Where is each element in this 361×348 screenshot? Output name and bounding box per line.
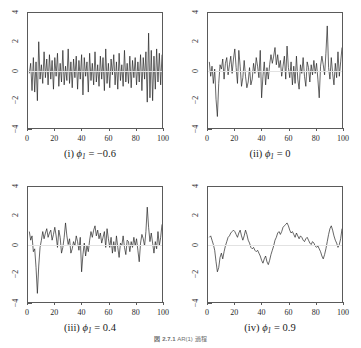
panel-i-y-axis: −4−2024 bbox=[6, 12, 26, 129]
panel-i: −4−2024 020406080100 (i) ϕ1 = −0.6 bbox=[0, 0, 180, 174]
panel-ii-x-tick-label: 40 bbox=[249, 134, 273, 144]
panel-ii-caption: (ii) ϕ1 = 0 bbox=[180, 148, 360, 161]
figure-caption: 図 2.7.1 AR(1) 過程 bbox=[0, 334, 361, 343]
panel-iv-caption-index: (iv) bbox=[244, 322, 259, 333]
panel-ii-plot-area bbox=[207, 12, 343, 129]
panel-iii-x-tick-label: 20 bbox=[42, 308, 66, 318]
panel-i-x-tick-mark bbox=[163, 128, 164, 131]
panel-iii-x-tick-label: 40 bbox=[69, 308, 93, 318]
panel-iv: −4−2024 020406080100 (iv) ϕ1 = 0.9 bbox=[180, 174, 360, 330]
panel-i-caption: (i) ϕ1 = −0.6 bbox=[0, 148, 180, 161]
panel-i-x-tick-mark bbox=[54, 128, 55, 131]
panel-iv-x-tick-label: 60 bbox=[277, 308, 301, 318]
panel-iii-x-tick-mark bbox=[27, 302, 28, 305]
panel-ii-x-axis: 020406080100 bbox=[207, 131, 343, 145]
panel-ii-caption-value: = 0 bbox=[277, 148, 291, 159]
panel-iii-caption: (iii) ϕ1 = 0.4 bbox=[0, 322, 180, 335]
panel-iii-caption-index: (iii) bbox=[64, 322, 80, 333]
panel-iv-y-tick-label: 0 bbox=[190, 235, 202, 255]
panel-i-y-tick-label: 4 bbox=[10, 2, 22, 22]
panel-i-caption-sub: 1 bbox=[82, 152, 86, 161]
panel-i-x-tick-mark bbox=[136, 128, 137, 131]
panel-iii-y-tick-label: −2 bbox=[10, 264, 22, 284]
panel-iv-x-tick-mark bbox=[207, 302, 208, 305]
figure-caption-text: AR(1) 過程 bbox=[177, 336, 206, 342]
panel-iii-y-axis: −4−2024 bbox=[6, 186, 26, 303]
panel-iv-x-tick-mark bbox=[234, 302, 235, 305]
panel-iii-x-tick-label: 0 bbox=[15, 308, 39, 318]
panel-ii-x-tick-mark bbox=[316, 128, 317, 131]
panel-iv-x-tick-label: 100 bbox=[331, 308, 355, 318]
panel-iii-caption-value: = 0.4 bbox=[94, 322, 116, 333]
panel-iv-x-tick-mark bbox=[343, 302, 344, 305]
panel-ii-zero-line bbox=[208, 71, 342, 72]
panel-ii-y-tick-label: 4 bbox=[190, 2, 202, 22]
panel-iii-x-tick-label: 100 bbox=[151, 308, 175, 318]
panel-ii-y-tick-mark bbox=[208, 129, 212, 130]
panel-iv-caption-value: = 0.9 bbox=[274, 322, 296, 333]
panel-grid: −4−2024 020406080100 (i) ϕ1 = −0.6 −4−20… bbox=[0, 0, 361, 330]
panel-ii-x-tick-label: 60 bbox=[277, 134, 301, 144]
panel-iv-x-axis: 020406080100 bbox=[207, 305, 343, 319]
panel-ii-y-tick-label: 2 bbox=[190, 31, 202, 51]
panel-iv-y-tick-label: 4 bbox=[190, 176, 202, 196]
panel-i-zero-line bbox=[28, 71, 162, 72]
panel-ii-caption-sub: 1 bbox=[270, 152, 274, 161]
panel-iv-x-tick-mark bbox=[261, 302, 262, 305]
panel-i-x-tick-label: 80 bbox=[124, 134, 148, 144]
panel-i-y-tick-label: 2 bbox=[10, 31, 22, 51]
panel-iii-x-tick-mark bbox=[109, 302, 110, 305]
figure-ar1-time-series: −4−2024 020406080100 (i) ϕ1 = −0.6 −4−20… bbox=[0, 0, 361, 348]
panel-iii-y-tick-label: 2 bbox=[10, 205, 22, 225]
panel-iii-x-tick-mark bbox=[163, 302, 164, 305]
panel-iv-x-tick-label: 80 bbox=[304, 308, 328, 318]
panel-iv-x-tick-label: 20 bbox=[222, 308, 246, 318]
panel-iii-y-tick-mark bbox=[28, 303, 32, 304]
panel-i-y-tick-label: 0 bbox=[10, 61, 22, 81]
panel-ii-y-tick-label: 0 bbox=[190, 61, 202, 81]
panel-ii-x-tick-mark bbox=[234, 128, 235, 131]
panel-ii-x-tick-mark bbox=[261, 128, 262, 131]
panel-ii-y-tick-label: −2 bbox=[190, 90, 202, 110]
panel-iii-zero-line bbox=[28, 245, 162, 246]
panel-iii-plot-area bbox=[27, 186, 163, 303]
figure-caption-label: 図 2.7.1 bbox=[154, 336, 175, 342]
panel-iv-zero-line bbox=[208, 245, 342, 246]
panel-i-caption-index: (i) bbox=[64, 148, 74, 159]
panel-i-x-axis: 020406080100 bbox=[27, 131, 163, 145]
panel-iii-x-tick-mark bbox=[54, 302, 55, 305]
panel-i-y-tick-mark bbox=[28, 129, 32, 130]
panel-ii-x-tick-mark bbox=[343, 128, 344, 131]
panel-i-x-tick-label: 40 bbox=[69, 134, 93, 144]
panel-iv-y-tick-label: −2 bbox=[190, 264, 202, 284]
panel-ii-x-tick-mark bbox=[207, 128, 208, 131]
panel-iv-y-tick-label: 2 bbox=[190, 205, 202, 225]
panel-i-x-tick-label: 60 bbox=[97, 134, 121, 144]
panel-ii-x-tick-label: 80 bbox=[304, 134, 328, 144]
panel-i-caption-value: = −0.6 bbox=[88, 148, 116, 159]
panel-iii-x-axis: 020406080100 bbox=[27, 305, 163, 319]
panel-i-x-tick-label: 20 bbox=[42, 134, 66, 144]
panel-iv-x-tick-mark bbox=[289, 302, 290, 305]
panel-i-x-tick-label: 0 bbox=[15, 134, 39, 144]
panel-iv-y-axis: −4−2024 bbox=[186, 186, 206, 303]
panel-iii-y-tick-label: 4 bbox=[10, 176, 22, 196]
panel-iii-y-tick-label: 0 bbox=[10, 235, 22, 255]
panel-iii-x-tick-label: 60 bbox=[97, 308, 121, 318]
panel-iv-x-tick-label: 0 bbox=[195, 308, 219, 318]
panel-ii-x-tick-label: 0 bbox=[195, 134, 219, 144]
panel-iii-x-tick-mark bbox=[81, 302, 82, 305]
panel-iii-x-tick-label: 80 bbox=[124, 308, 148, 318]
panel-i-plot-area bbox=[27, 12, 163, 129]
panel-iii-x-tick-mark bbox=[136, 302, 137, 305]
panel-iv-x-tick-mark bbox=[316, 302, 317, 305]
panel-i-x-tick-label: 100 bbox=[151, 134, 175, 144]
panel-ii: −4−2024 020406080100 (ii) ϕ1 = 0 bbox=[180, 0, 360, 174]
panel-i-x-tick-mark bbox=[109, 128, 110, 131]
panel-i-x-tick-mark bbox=[81, 128, 82, 131]
panel-ii-y-axis: −4−2024 bbox=[186, 12, 206, 129]
panel-iv-caption: (iv) ϕ1 = 0.9 bbox=[180, 322, 360, 335]
panel-iii: −4−2024 020406080100 (iii) ϕ1 = 0.4 bbox=[0, 174, 180, 330]
panel-iv-x-tick-label: 40 bbox=[249, 308, 273, 318]
panel-i-x-tick-mark bbox=[27, 128, 28, 131]
